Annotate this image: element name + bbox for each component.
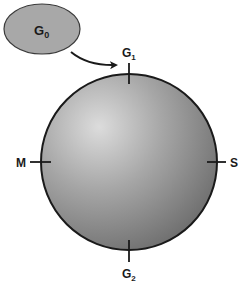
g0-to-g1-arrow: [71, 52, 116, 65]
g2-label: G2: [122, 267, 136, 283]
cell-cycle-diagram: G0 G1 S G2 M: [0, 0, 244, 286]
g1-label: G1: [122, 46, 136, 62]
g0-state: G0: [4, 4, 80, 54]
m-label: M: [16, 156, 26, 170]
s-label: S: [230, 156, 238, 170]
cell-cycle-sphere: [41, 74, 217, 250]
